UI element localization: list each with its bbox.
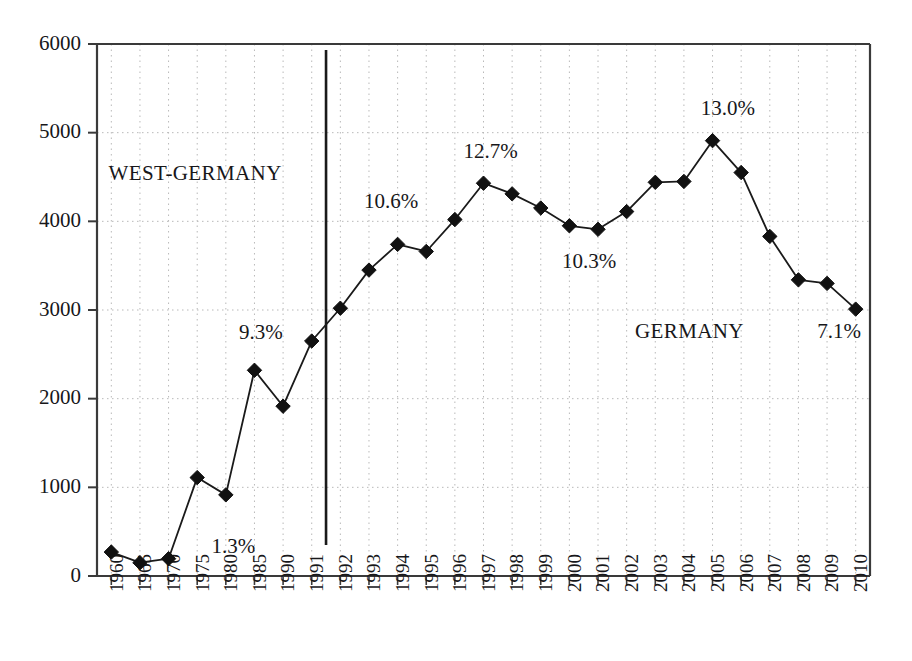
x-tick-label: 2005 (707, 554, 728, 592)
x-tick-label: 1990 (277, 554, 298, 592)
x-tick-label: 2007 (764, 554, 785, 592)
x-tick-label: 1998 (506, 554, 527, 592)
y-tick-label: 5000 (39, 119, 81, 143)
x-tick-label: 2003 (650, 554, 671, 592)
y-tick-label: 2000 (39, 385, 81, 409)
x-tick-label: 1993 (363, 554, 384, 592)
x-tick-label: 1975 (192, 554, 213, 592)
y-tick-label: 0 (71, 563, 82, 587)
annotation-pct-2005: 13.0% (701, 96, 755, 120)
annotation-germany-label: GERMANY (635, 319, 744, 343)
x-tick-label: 1991 (306, 554, 327, 592)
x-tick-label: 2002 (621, 554, 642, 592)
x-tick-label: 2008 (793, 554, 814, 592)
annotation-pct-1997: 12.7% (464, 139, 518, 163)
x-tick-label: 1985 (249, 554, 270, 592)
x-tick-label: 2006 (736, 554, 757, 592)
y-tick-label: 6000 (39, 31, 81, 55)
y-tick-label: 1000 (39, 474, 81, 498)
annotation-pct-2001: 10.3% (562, 249, 616, 273)
annotation-pct-1980: 1.3% (212, 534, 256, 558)
line-chart: 0100020003000400050006000 19601965197019… (0, 0, 912, 661)
x-tick-label: 1980 (220, 554, 241, 592)
x-tick-label: 2009 (821, 554, 842, 592)
x-tick-label: 1960 (106, 554, 127, 592)
x-tick-label: 2010 (850, 554, 871, 592)
x-tick-label: 1994 (392, 554, 413, 593)
x-tick-label: 2001 (592, 554, 613, 592)
x-tick-label: 1995 (421, 554, 442, 592)
x-tick-label: 1996 (449, 554, 470, 592)
x-axis-ticks: 1960196519701975198019851990199119921993… (106, 554, 871, 593)
x-tick-label: 2000 (564, 554, 585, 592)
annotation-west-germany-label: WEST-GERMANY (109, 161, 282, 185)
annotation-pct-1985: 9.3% (239, 320, 283, 344)
annotation-pct-1992: 10.6% (364, 189, 418, 213)
x-tick-label: 1997 (478, 554, 499, 592)
annotation-pct-2009: 7.1% (817, 319, 861, 343)
x-tick-label: 1999 (535, 554, 556, 592)
x-tick-label: 2004 (678, 554, 699, 593)
chart-container: 0100020003000400050006000 19601965197019… (0, 0, 912, 661)
y-tick-label: 4000 (39, 208, 81, 232)
y-tick-label: 3000 (39, 297, 81, 321)
x-tick-label: 1992 (335, 554, 356, 592)
